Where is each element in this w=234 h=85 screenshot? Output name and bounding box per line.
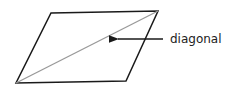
parallelogram-diagram: diagonal — [0, 0, 234, 85]
diagonal-label: diagonal — [170, 32, 222, 46]
diagonal-line — [16, 11, 158, 83]
